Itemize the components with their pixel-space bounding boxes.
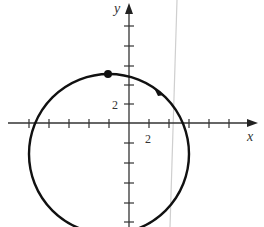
x-tick-label-2: 2: [145, 132, 151, 146]
x-axis-arrow-icon: [247, 119, 258, 127]
y-tick-label-2: 2: [112, 98, 118, 112]
x-axis-label: x: [246, 129, 254, 144]
circle-curve: [29, 74, 189, 227]
y-axis-arrow-icon: [125, 3, 133, 14]
start-point-dot: [104, 70, 112, 78]
x-axis: [8, 119, 258, 128]
graph-canvas: x y 2 2: [0, 0, 264, 227]
direction-arrow-icon: [154, 88, 164, 96]
y-axis: [124, 3, 134, 227]
grey-crease-line: [170, 0, 177, 227]
y-axis-label: y: [112, 1, 121, 16]
